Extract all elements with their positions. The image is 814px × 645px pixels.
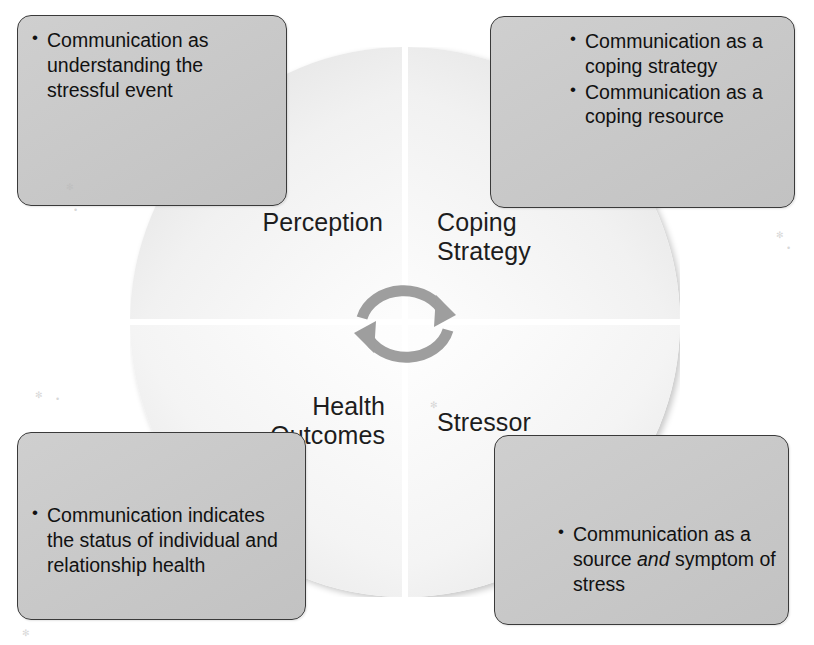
callout-health-outcomes[interactable]: Communication indicates the status of in… <box>17 432 306 620</box>
callout-bullet: Communication as understanding the stres… <box>32 28 276 102</box>
callout-coping-strategy-body: Communication as a coping strategy Commu… <box>491 17 794 129</box>
callout-coping-strategy[interactable]: Communication as a coping strategy Commu… <box>490 16 795 208</box>
scan-speckle: • <box>787 243 790 253</box>
upper-rotation-arrow <box>362 291 456 327</box>
lower-rotation-arrow <box>354 321 448 357</box>
callout-stressor-body: Communication as a source and symptom of… <box>495 436 788 596</box>
callout-bullet-emphasis: and <box>637 548 670 570</box>
scan-speckle: ✻ <box>35 390 43 400</box>
callout-bullet: Communication as a coping resource <box>570 80 784 130</box>
scan-speckle: ✻ <box>22 628 30 638</box>
callout-bullet: Communication indicates the status of in… <box>32 503 295 577</box>
callout-bullet: Communication as a coping strategy <box>570 29 784 79</box>
scan-speckle: • <box>74 205 77 215</box>
quadrant-label-coping-strategy: Coping Strategy <box>437 208 607 266</box>
callout-stressor[interactable]: Communication as a source and symptom of… <box>494 435 789 625</box>
circular-rotation-arrows-icon <box>340 265 470 383</box>
diagram-canvas: Perception Coping Strategy Health Outcom… <box>0 0 814 645</box>
scan-speckle: • <box>56 394 59 404</box>
scan-speckle: ✻ <box>776 230 784 240</box>
callout-bullet: Communication as a source and symptom of… <box>558 522 778 596</box>
callout-stressor-list: Communication as a source and symptom of… <box>558 522 778 596</box>
callout-perception[interactable]: Communication as understanding the stres… <box>17 15 287 206</box>
callout-health-outcomes-body: Communication indicates the status of in… <box>18 433 305 577</box>
quadrant-label-stressor: Stressor <box>437 408 607 437</box>
callout-perception-body: Communication as understanding the stres… <box>18 16 286 102</box>
callout-perception-list: Communication as understanding the stres… <box>32 28 276 102</box>
rotation-arrows-svg <box>340 265 470 383</box>
quadrant-label-perception: Perception <box>243 208 383 237</box>
callout-health-outcomes-list: Communication indicates the status of in… <box>32 503 295 577</box>
callout-coping-strategy-list: Communication as a coping strategy Commu… <box>570 29 784 129</box>
